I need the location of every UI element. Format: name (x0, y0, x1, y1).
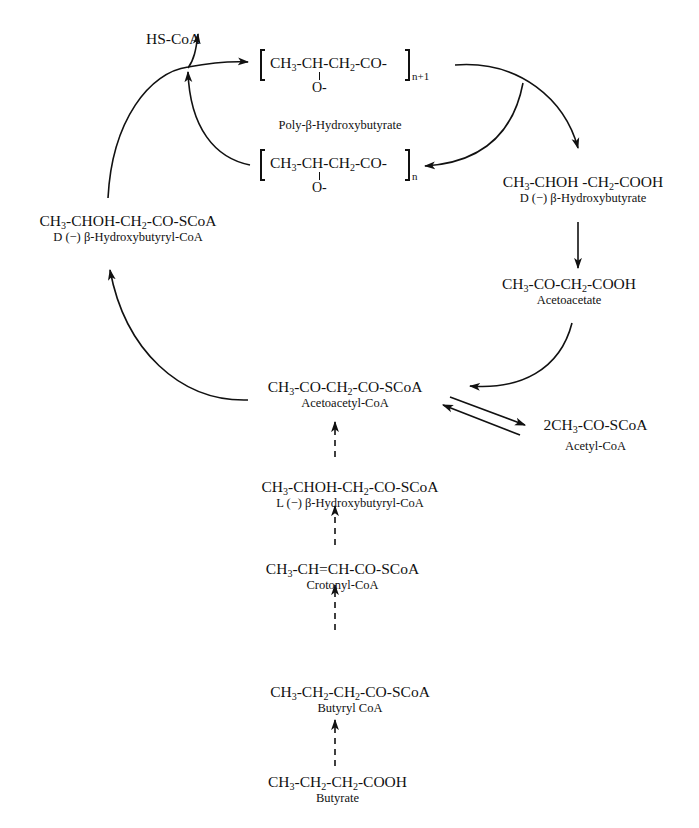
arrow-acetoacetate-to-acetoacetylcoa (470, 323, 572, 386)
node-acetoacetate: CH3-CO-CH2-COOH Acetoacetate (484, 275, 654, 308)
d-hb-coa-formula: CH3-CHOH-CH2-CO-SCoA (28, 212, 228, 230)
butyrate-formula: CH3-CH2-CH2-COOH (255, 773, 420, 791)
crotonyl-coa-name: Crotonyl-CoA (255, 578, 430, 593)
acetoacetate-name: Acetoacetate (484, 293, 654, 308)
node-butyrate: CH3-CH2-CH2-COOH Butyrate (255, 773, 420, 806)
polymer-n-pendant: O- (312, 172, 327, 196)
node-polymer-n1: CH3-CH-CH2-CO- (270, 54, 387, 73)
acetoacetyl-coa-name: Acetoacetyl-CoA (250, 396, 440, 411)
pathway-diagram: HS-CoA CH3-CH-CH2-CO- O- n+1 Poly-β-Hydr… (0, 0, 699, 828)
polymer-n1-pendant: O- (312, 72, 327, 96)
node-acetoacetyl-coa: CH3-CO-CH2-CO-SCoA Acetoacetyl-CoA (250, 378, 440, 411)
bracket-right-n (405, 150, 409, 180)
acetoacetate-formula: CH3-CO-CH2-COOH (484, 275, 654, 293)
butyrate-name: Butyrate (255, 791, 420, 806)
node-hscoa: HS-CoA (146, 30, 200, 48)
arrow-polymer-to-polymer-n (425, 83, 523, 166)
arrow-polymer-n-to-junction (188, 72, 250, 165)
acetyl-coa-formula: 2CH3-CO-SCoA (528, 416, 663, 434)
polymer-name: Poly-β-Hydroxybutyrate (255, 118, 425, 133)
node-d-hydroxybutyrate: CH3-CHOH -CH2-COOH D (−) β-Hydroxybutyra… (488, 173, 678, 206)
bracket-left-n1 (261, 50, 265, 80)
bracket-right-n1 (405, 50, 409, 80)
polymer-n-formula: CH3-CH-CH2-CO- (270, 154, 387, 171)
node-d-hydroxybutyryl-coa: CH3-CHOH-CH2-CO-SCoA D (−) β-Hydroxybuty… (28, 212, 228, 245)
arrow-dhbcoa-to-polymer (108, 62, 248, 198)
polymer-n-subscript: n (412, 170, 418, 182)
d-hb-coa-name: D (−) β-Hydroxybutyryl-CoA (28, 230, 228, 245)
arrow-acetoacetylcoa-to-acetylcoa (450, 397, 525, 425)
crotonyl-coa-formula: CH3-CH=CH-CO-SCoA (255, 560, 430, 578)
node-polymer-n: CH3-CH-CH2-CO- (270, 154, 387, 173)
butyryl-coa-formula: CH3-CH2-CH2-CO-SCoA (255, 683, 445, 701)
d-hb-name: D (−) β-Hydroxybutyrate (488, 191, 678, 206)
l-hb-coa-name: L (−) β-Hydroxybutyryl-CoA (255, 496, 445, 511)
node-acetyl-coa: 2CH3-CO-SCoA Acetyl-CoA (528, 416, 663, 454)
arrow-acetoacetylcoa-to-dhbcoa (110, 270, 248, 400)
polymer-n1-subscript: n+1 (412, 70, 429, 82)
hscoa-formula: HS-CoA (146, 30, 200, 47)
bracket-left-n (261, 150, 265, 180)
acetoacetyl-coa-formula: CH3-CO-CH2-CO-SCoA (250, 378, 440, 396)
l-hb-coa-formula: CH3-CHOH-CH2-CO-SCoA (255, 478, 445, 496)
d-hb-formula: CH3-CHOH -CH2-COOH (488, 173, 678, 191)
node-l-hydroxybutyryl-coa: CH3-CHOH-CH2-CO-SCoA L (−) β-Hydroxybuty… (255, 478, 445, 511)
acetyl-coa-name: Acetyl-CoA (528, 439, 663, 454)
node-butyryl-coa: CH3-CH2-CH2-CO-SCoA Butyryl CoA (255, 683, 445, 716)
node-crotonyl-coa: CH3-CH=CH-CO-SCoA Crotonyl-CoA (255, 560, 430, 593)
butyryl-coa-name: Butyryl CoA (255, 701, 445, 716)
polymer-n1-formula: CH3-CH-CH2-CO- (270, 54, 387, 71)
